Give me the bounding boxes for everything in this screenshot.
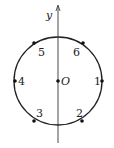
point-5-label: 5 bbox=[38, 46, 45, 59]
point-5: 5 bbox=[32, 41, 45, 59]
point-6: 6 bbox=[73, 41, 85, 59]
point-2-label: 2 bbox=[76, 107, 83, 120]
point-4-label: 4 bbox=[18, 75, 25, 88]
y-axis-label: y bbox=[45, 9, 53, 22]
point-3-label: 3 bbox=[36, 107, 43, 120]
point-1-label: 1 bbox=[94, 75, 101, 88]
point-6-label: 6 bbox=[73, 46, 80, 59]
point-4: 4 bbox=[13, 75, 25, 88]
circle-diagram: y O 1 2 3 4 5 6 bbox=[0, 0, 114, 148]
origin-point bbox=[56, 79, 60, 83]
origin-label: O bbox=[61, 75, 70, 88]
